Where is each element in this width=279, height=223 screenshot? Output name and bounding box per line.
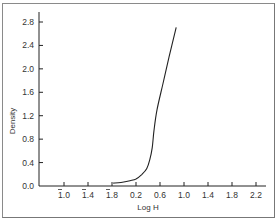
x-tick-label: 0.2 xyxy=(130,190,142,200)
x-tick-label: 1.0 xyxy=(178,190,190,200)
x-axis: 1.01.41.80.20.61.01.41.82.2 xyxy=(39,182,266,200)
y-tick-label: 0.0 xyxy=(22,181,34,191)
x-tick-label: 1.0 xyxy=(58,190,70,200)
x-tick-label: 0.6 xyxy=(154,190,166,200)
y-tick-label: 2.0 xyxy=(22,64,34,74)
x-axis-title: Log H xyxy=(137,203,159,212)
x-tick-label: 1.4 xyxy=(202,190,214,200)
x-tick-label: 1.8 xyxy=(106,190,118,200)
x-tick-label: 2.2 xyxy=(250,190,262,200)
y-tick-label: 2.8 xyxy=(22,17,34,27)
x-tick-label: 1.8 xyxy=(226,190,238,200)
density-chart: 0.00.40.81.21.62.02.42.8 1.01.41.80.20.6… xyxy=(0,0,279,223)
y-tick-label: 0.4 xyxy=(22,158,34,168)
y-tick-label: 1.6 xyxy=(22,87,34,97)
y-axis-title: Density xyxy=(8,108,17,135)
density-curve xyxy=(113,27,176,183)
y-tick-label: 0.8 xyxy=(22,134,34,144)
y-axis: 0.00.40.81.21.62.02.42.8 xyxy=(22,12,43,191)
x-tick-label: 1.4 xyxy=(82,190,94,200)
y-tick-label: 2.4 xyxy=(22,40,34,50)
y-tick-label: 1.2 xyxy=(22,111,34,121)
